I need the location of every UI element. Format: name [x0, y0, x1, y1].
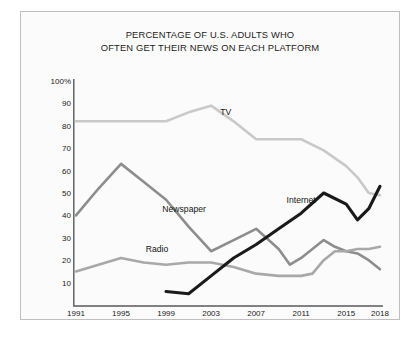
y-tick-60: 60 [62, 166, 71, 175]
x-tick-1991: 1991 [67, 309, 85, 318]
x-tick-2018: 2018 [371, 309, 389, 318]
x-axis-tick-labels: 19911995199920032007201120152018 [73, 309, 393, 325]
series-label-internet: Internet [287, 195, 316, 205]
x-tick-2007: 2007 [247, 309, 265, 318]
chart-title: PERCENTAGE OF U.S. ADULTS WHO OFTEN GET … [21, 29, 399, 54]
plot-area: TVNewspaperRadioInternet [73, 79, 383, 307]
x-tick-1999: 1999 [157, 309, 175, 318]
series-label-radio: Radio [146, 244, 168, 254]
y-axis-tick-labels: 100%908070605040302010 [43, 79, 71, 307]
series-line-newspaper [76, 164, 380, 269]
x-tick-2011: 2011 [293, 309, 310, 318]
y-tick-70: 70 [62, 144, 71, 153]
y-tick-40: 40 [62, 211, 71, 220]
series-line-internet [166, 186, 380, 294]
chart-frame: PERCENTAGE OF U.S. ADULTS WHO OFTEN GET … [20, 11, 400, 320]
y-tick-100: 100% [51, 77, 71, 86]
y-tick-90: 90 [62, 99, 71, 108]
x-tick-2003: 2003 [202, 309, 220, 318]
y-tick-10: 10 [62, 278, 71, 287]
y-tick-50: 50 [62, 189, 71, 198]
y-tick-80: 80 [62, 121, 71, 130]
y-tick-30: 30 [62, 233, 71, 242]
series-label-tv: TV [220, 107, 231, 117]
series-label-newspaper: Newspaper [162, 204, 205, 214]
x-tick-2015: 2015 [337, 309, 355, 318]
x-tick-1995: 1995 [112, 309, 130, 318]
y-tick-20: 20 [62, 256, 71, 265]
series-line-tv [76, 106, 380, 196]
